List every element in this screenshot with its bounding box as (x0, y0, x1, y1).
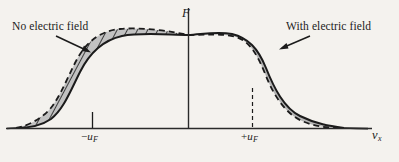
tick-sub-minus: F (93, 135, 98, 144)
with-field-leader-arrow (279, 36, 310, 50)
no-electric-field-band (16, 28, 188, 128)
annotation-no-electric-field: No electric field (12, 21, 88, 33)
annotation-with-electric-field: With electric field (286, 21, 371, 33)
tick-label-minus-u-f: −uF (81, 131, 98, 144)
shifted-curve-right (188, 35, 344, 129)
no-field-leader-arrow (56, 36, 91, 53)
unshifted-curve-left (16, 34, 188, 128)
x-axis-label-sub: x (378, 134, 382, 143)
x-axis-label: vx (372, 129, 382, 143)
tick-sub-plus: F (253, 135, 258, 144)
tick-main-minus: u (87, 130, 93, 142)
x-axis-label-main: v (372, 128, 378, 142)
tick-main-plus: u (247, 130, 253, 142)
tick-label-plus-u-f: +uF (241, 131, 258, 144)
physics-figure: No electric field With electric field F … (0, 0, 399, 162)
unshifted-curve-right (188, 33, 344, 128)
y-axis-label: F (182, 7, 190, 20)
with-electric-field-band (188, 33, 344, 128)
